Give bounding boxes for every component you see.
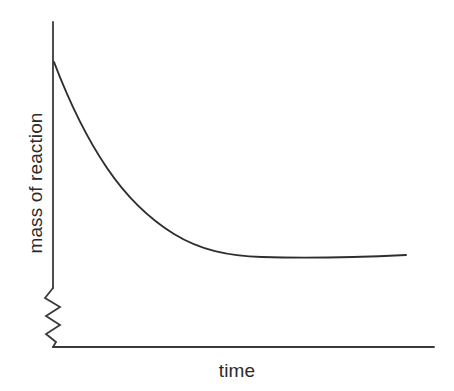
x-axis-label: time — [219, 361, 255, 380]
y-axis-break-zigzag-icon — [45, 288, 60, 347]
y-axis-label: mass of reaction — [26, 113, 45, 254]
chart-figure: mass of reaction time — [0, 0, 454, 391]
chart-plot-area — [0, 0, 454, 391]
data-curve-mass-of-reaction — [54, 62, 406, 258]
